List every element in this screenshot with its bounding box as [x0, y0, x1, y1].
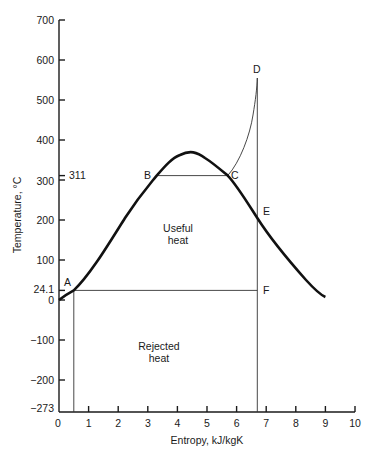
- y-axis-label: Temperature, °C: [11, 176, 23, 253]
- svg-text:3: 3: [145, 417, 151, 429]
- svg-text:300: 300: [36, 175, 54, 187]
- svg-text:4: 4: [174, 417, 180, 429]
- svg-text:400: 400: [36, 134, 54, 146]
- useful-heat-line2: heat: [168, 234, 189, 246]
- svg-text:500: 500: [36, 94, 54, 106]
- x-axis-label: Entropy, kJ/kgK: [171, 434, 244, 446]
- svg-text:5: 5: [204, 417, 210, 429]
- point-f-label: F: [263, 284, 269, 296]
- point-c-label: C: [231, 169, 239, 181]
- svg-text:600: 600: [36, 54, 54, 66]
- x-axis: [59, 406, 355, 412]
- svg-text:1: 1: [86, 417, 92, 429]
- point-b-label: B: [144, 169, 151, 181]
- svg-text:−100: −100: [30, 334, 54, 346]
- ts-diagram: 700 600 500 400 300 200 100 24.1 0 −100 …: [0, 0, 377, 455]
- svg-text:2: 2: [115, 417, 121, 429]
- svg-text:7: 7: [263, 417, 269, 429]
- svg-text:9: 9: [322, 417, 328, 429]
- svg-text:0: 0: [48, 294, 54, 306]
- useful-heat-line1: Useful: [163, 222, 193, 234]
- svg-text:−273: −273: [30, 402, 54, 414]
- x-tick-labels: 0 1 2 3 4 5 6 7 8 9 10: [55, 417, 361, 429]
- svg-text:0: 0: [55, 417, 61, 429]
- svg-text:6: 6: [234, 417, 240, 429]
- point-a-label: A: [64, 276, 71, 288]
- y-axis: [59, 20, 65, 412]
- svg-text:100: 100: [36, 254, 54, 266]
- svg-text:10: 10: [349, 417, 361, 429]
- svg-text:−200: −200: [30, 374, 54, 386]
- annotation-311: 311: [69, 169, 86, 181]
- svg-text:200: 200: [36, 214, 54, 226]
- svg-text:700: 700: [36, 14, 54, 26]
- rejected-heat-line1: Rejected: [138, 340, 180, 352]
- point-d-label: D: [253, 63, 261, 75]
- svg-text:8: 8: [293, 417, 299, 429]
- point-e-label: E: [263, 205, 270, 217]
- rejected-heat-line2: heat: [149, 352, 170, 364]
- y-tick-labels: 700 600 500 400 300 200 100 24.1 0 −100 …: [30, 14, 54, 414]
